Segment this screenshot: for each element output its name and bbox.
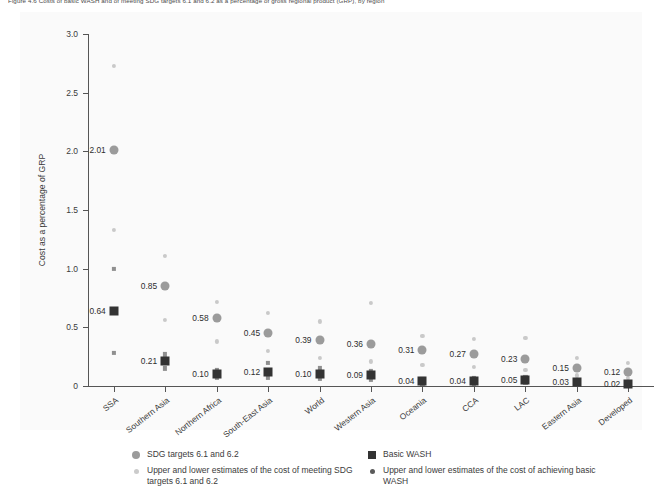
sdg-value-marker: [367, 339, 376, 348]
x-tick-mark: [217, 387, 218, 392]
legend-swatch-wash-range-icon: [370, 469, 375, 474]
x-tick-mark: [371, 387, 372, 392]
wash-value-marker: [264, 367, 273, 376]
sdg-value-label: 2.01: [89, 145, 105, 155]
sdg-value-label: 0.36: [347, 339, 363, 349]
sdg-value-marker: [418, 345, 427, 354]
legend-item-sdg-range[interactable]: Upper and lower estimates of the cost of…: [132, 465, 368, 487]
wash-value-marker: [521, 376, 530, 385]
sdg-value-marker: [264, 329, 273, 338]
sdg-value-label: 0.12: [604, 367, 620, 377]
wash-value-label: 0.04: [450, 376, 466, 386]
legend-label: Upper and lower estimates of the cost of…: [383, 465, 604, 487]
wash-value-marker: [367, 371, 376, 380]
sdg-value-marker: [521, 355, 530, 364]
sdg-value-label: 0.15: [553, 363, 569, 373]
wash-value-marker: [418, 377, 427, 386]
sdg-value-label: 0.39: [295, 335, 311, 345]
wash-upper-estimate-dot: [112, 267, 116, 271]
wash-value-label: 0.03: [553, 377, 569, 387]
plot-area: [88, 34, 654, 386]
sdg-value-label: 0.27: [450, 349, 466, 359]
x-tick-mark: [114, 387, 115, 392]
legend-column-left: SDG targets 6.1 and 6.2Upper and lower e…: [132, 449, 368, 492]
wash-upper-estimate-dot: [266, 360, 270, 364]
wash-value-label: 0.12: [244, 367, 260, 377]
x-tick-label: SSA: [19, 395, 120, 477]
y-tick-label: 3.0: [20, 29, 78, 39]
sdg-value-label: 0.85: [141, 281, 157, 291]
y-tick-label: 1.5: [20, 205, 78, 215]
sdg-value-label: 0.45: [244, 328, 260, 338]
figure-caption: Figure 4.6 Costs of basic WASH and of me…: [8, 0, 648, 4]
sdg-value-label: 0.23: [501, 354, 517, 364]
y-tick-label: 0.5: [20, 322, 78, 332]
sdg-value-label: 0.31: [398, 345, 414, 355]
x-tick-mark: [577, 387, 578, 392]
wash-value-marker: [109, 306, 118, 315]
legend-label: Basic WASH: [383, 449, 604, 460]
wash-lower-estimate-dot: [163, 366, 167, 370]
wash-value-marker: [161, 357, 170, 366]
y-tick-label: 1.0: [20, 264, 78, 274]
legend-item-sdg-main[interactable]: SDG targets 6.1 and 6.2: [132, 449, 368, 460]
legend-label: SDG targets 6.1 and 6.2: [147, 449, 368, 460]
sdg-value-marker: [572, 364, 581, 373]
x-tick-mark: [525, 387, 526, 392]
x-tick-mark: [320, 387, 321, 392]
legend-swatch-sdg-range-icon: [134, 469, 139, 474]
wash-value-marker: [315, 370, 324, 379]
wash-value-label: 0.10: [295, 369, 311, 379]
legend-column-right: Basic WASHUpper and lower estimates of t…: [368, 449, 604, 492]
sdg-value-label: 0.58: [192, 313, 208, 323]
sdg-value-marker: [109, 146, 118, 155]
chart-panel: Cost as a percentage of GRP 00.51.01.52.…: [20, 12, 642, 430]
x-tick-mark: [268, 387, 269, 392]
wash-lower-estimate-dot: [112, 351, 116, 355]
x-tick-mark: [422, 387, 423, 392]
sdg-value-marker: [212, 313, 221, 322]
y-tick-label: 2.5: [20, 88, 78, 98]
legend-label: Upper and lower estimates of the cost of…: [147, 465, 368, 487]
sdg-value-marker: [624, 367, 633, 376]
x-tick-mark: [165, 387, 166, 392]
wash-value-label: 0.02: [604, 379, 620, 389]
wash-value-marker: [624, 379, 633, 388]
sdg-value-marker: [469, 350, 478, 359]
wash-value-label: 0.10: [192, 369, 208, 379]
wash-upper-estimate-dot: [163, 352, 167, 356]
wash-value-marker: [212, 370, 221, 379]
wash-value-label: 0.21: [141, 356, 157, 366]
chart-legend: SDG targets 6.1 and 6.2Upper and lower e…: [132, 449, 602, 504]
legend-swatch-wash-main-icon: [368, 451, 376, 459]
wash-value-label: 0.09: [347, 370, 363, 380]
wash-value-marker: [572, 378, 581, 387]
legend-swatch-sdg-main-icon: [132, 451, 140, 459]
wash-value-marker: [469, 377, 478, 386]
wash-value-label: 0.05: [501, 375, 517, 385]
y-tick-mark: [83, 386, 88, 387]
wash-value-label: 0.04: [398, 376, 414, 386]
legend-item-wash-range[interactable]: Upper and lower estimates of the cost of…: [368, 465, 604, 487]
x-tick-mark: [474, 387, 475, 392]
y-tick-label: 2.0: [20, 146, 78, 156]
y-tick-label: 0: [20, 381, 78, 391]
sdg-value-marker: [315, 336, 324, 345]
legend-item-wash-main[interactable]: Basic WASH: [368, 449, 604, 460]
sdg-value-marker: [161, 282, 170, 291]
wash-value-label: 0.64: [89, 306, 105, 316]
